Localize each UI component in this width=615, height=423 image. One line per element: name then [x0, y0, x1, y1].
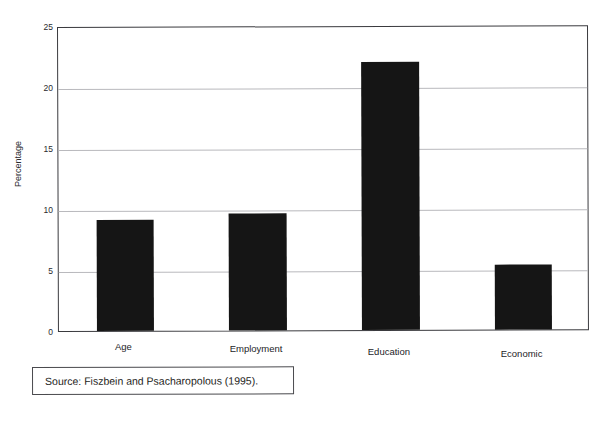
- gridline-y-15: [58, 148, 587, 151]
- y-tick-label-10: 10: [44, 205, 53, 215]
- figure-bar-chart: Percentage 0510152025 AgeEmploymentEduca…: [0, 0, 615, 423]
- source-note-box: Source: Fiszbein and Psacharopolous (199…: [32, 366, 294, 395]
- bar-economic: [495, 265, 553, 330]
- y-tick-label-15: 15: [44, 144, 53, 154]
- plot-area: [57, 25, 589, 332]
- plot-inner: [58, 26, 588, 331]
- gridline-y-20: [58, 87, 587, 90]
- gridline-y-10: [59, 209, 588, 212]
- bar-education: [361, 61, 420, 330]
- cropped-title-remnant: [300, 0, 480, 7]
- y-tick-label-0: 0: [48, 327, 53, 337]
- x-tick-label-age: Age: [115, 341, 132, 352]
- y-tick-label-20: 20: [44, 83, 53, 93]
- bar-age: [96, 220, 154, 331]
- y-tick-label-25: 25: [44, 22, 53, 32]
- bar-employment: [229, 213, 287, 330]
- source-note-text: Source: Fiszbein and Psacharopolous (199…: [45, 374, 258, 387]
- y-axis-label: Percentage: [13, 141, 23, 187]
- x-tick-label-economic: Economic: [501, 348, 543, 359]
- x-tick-label-employment: Employment: [230, 343, 283, 354]
- y-tick-label-5: 5: [48, 266, 53, 276]
- x-tick-label-education: Education: [368, 346, 410, 357]
